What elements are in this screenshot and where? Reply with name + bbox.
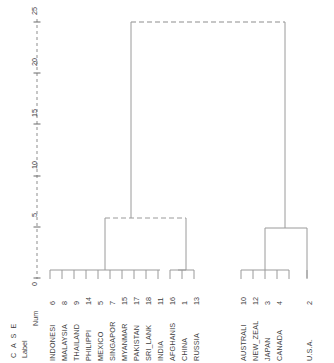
leaf-num-india: 11 — [156, 298, 165, 305]
merge-left-cluster — [105, 218, 186, 270]
leaf-label-russia: RUSSIA — [192, 333, 201, 361]
leaf-num-canada: 4 — [275, 301, 284, 305]
axis-label-10: 10 — [30, 161, 39, 169]
leaf-label-mexico: MEXICO — [96, 331, 105, 361]
leaf-label-philippi: PHILIPPI — [84, 330, 93, 361]
leaf-num-philippi: 14 — [84, 297, 93, 305]
leaf-num-myanmar: 15 — [120, 297, 129, 305]
leaf-num-malaysia: 8 — [60, 301, 69, 305]
leaf-num-afghanis: 16 — [168, 297, 177, 305]
leaf-label-malaysia: MALAYSIA — [60, 324, 69, 361]
leaf-num-pakistan: 17 — [132, 297, 141, 305]
leaf-label-india: INDIA — [156, 341, 165, 361]
axis-label-0: 0 — [30, 282, 39, 286]
asia-subgroup — [50, 270, 160, 279]
axis-label-25: 25 — [30, 7, 39, 15]
leaf-label-singapor: SINGAPOR — [108, 321, 117, 361]
leaf-num-australi: 10 — [239, 297, 248, 305]
dendrogram-plot — [0, 0, 334, 363]
leaf-num-mexico: 5 — [96, 301, 105, 305]
leaf-num-thailand: 9 — [72, 301, 81, 305]
leaf-label-sri-lank: SRI_LANK — [144, 325, 153, 361]
leaf-num-indonesi: 6 — [48, 301, 57, 305]
dendrogram-figure: 25 20 15 10 5 0 C A S E Label Num 6INDON… — [0, 0, 334, 363]
axis-label-15: 15 — [30, 109, 39, 117]
leaf-num-u-s-a-: 2 — [305, 301, 314, 305]
leaf-label-u-s-a-: U.S.A. — [305, 339, 314, 361]
leaf-label-new-zeal: NEW_ZEAL — [251, 321, 260, 361]
leaf-num-russia: 13 — [192, 297, 201, 305]
leaf-label-thailand: THAILAND — [72, 324, 81, 361]
header-label: Label — [20, 340, 29, 358]
header-case: C A S E — [9, 322, 18, 358]
leaf-label-myanmar: MYANMAR — [120, 323, 129, 361]
leaf-label-canada: CANADA — [275, 330, 284, 361]
western-subgroup — [241, 270, 289, 279]
china-russia-subgroup — [170, 270, 194, 279]
header-num: Num — [31, 311, 40, 326]
leaf-num-china: 1 — [180, 301, 189, 305]
leaf-num-japan: 3 — [263, 301, 272, 305]
leaf-num-sri-lank: 18 — [144, 297, 153, 305]
axis-label-20: 20 — [30, 58, 39, 66]
merge-root — [131, 22, 285, 228]
leaf-label-afghanis: AFGHANIS — [168, 323, 177, 361]
leaf-num-singapor: 7 — [108, 301, 117, 305]
axis-label-5: 5 — [30, 213, 39, 217]
leaf-num-new-zeal: 12 — [251, 297, 260, 305]
leaf-label-australi: AUSTRALI — [239, 324, 248, 361]
leaf-label-indonesi: INDONESI — [48, 325, 57, 361]
leaf-label-china: CHINA — [180, 338, 189, 361]
leaf-label-japan: JAPAN — [263, 337, 272, 361]
leaf-label-pakistan: PAKISTAN — [132, 325, 141, 361]
